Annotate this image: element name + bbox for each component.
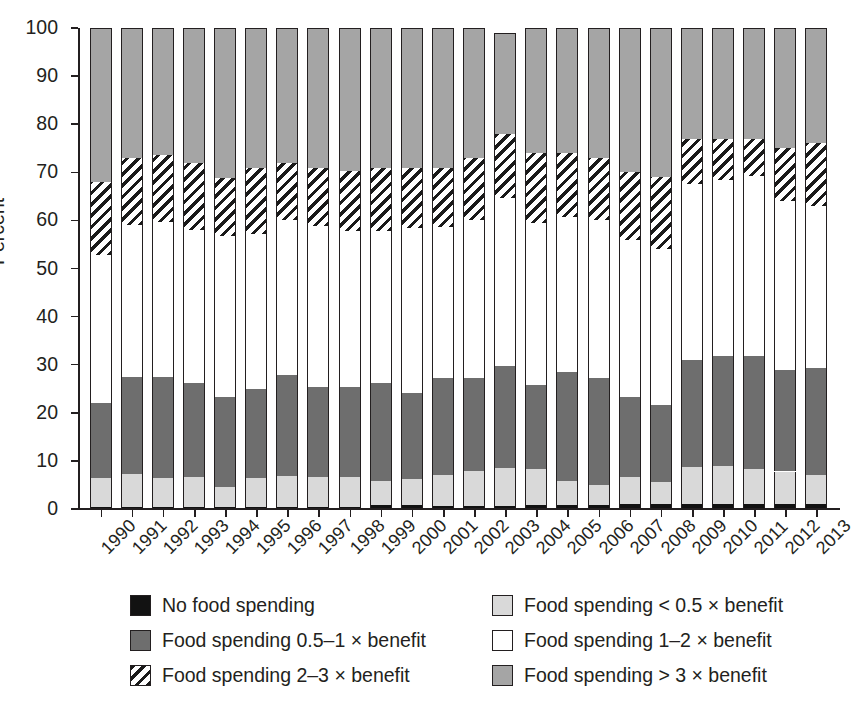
bar-segment-2_to_3[interactable]	[712, 139, 734, 181]
bar-segment-half_to_1[interactable]	[432, 378, 454, 475]
legend-item-right-2[interactable]: Food spending > 3 × benefit	[492, 658, 783, 693]
bar-segment-1_to_2[interactable]	[214, 236, 236, 397]
bar-segment-gt_3[interactable]	[494, 33, 516, 134]
bar-segment-1_to_2[interactable]	[556, 217, 578, 373]
bar-segment-half_to_1[interactable]	[370, 383, 392, 481]
bar-segment-2_to_3[interactable]	[494, 134, 516, 198]
bar-segment-half_to_1[interactable]	[245, 389, 267, 478]
bar-segment-1_to_2[interactable]	[805, 206, 827, 367]
legend-item-left-2[interactable]: Food spending 2–3 × benefit	[130, 658, 426, 693]
bar-segment-lt_half[interactable]	[681, 467, 703, 504]
bar-segment-gt_3[interactable]	[183, 28, 205, 163]
bar-segment-lt_half[interactable]	[743, 469, 765, 504]
bar-segment-1_to_2[interactable]	[681, 184, 703, 360]
bar-segment-half_to_1[interactable]	[339, 387, 361, 477]
bar-segment-half_to_1[interactable]	[805, 368, 827, 476]
bar-segment-1_to_2[interactable]	[307, 226, 329, 387]
bar-segment-gt_3[interactable]	[619, 28, 641, 172]
bar-segment-gt_3[interactable]	[370, 28, 392, 167]
bar-segment-2_to_3[interactable]	[183, 163, 205, 230]
bar-segment-2_to_3[interactable]	[307, 168, 329, 226]
bar-segment-lt_half[interactable]	[276, 476, 298, 507]
bar-segment-2_to_3[interactable]	[401, 168, 423, 229]
bar-segment-half_to_1[interactable]	[214, 397, 236, 487]
bar-segment-gt_3[interactable]	[432, 28, 454, 167]
bar-segment-half_to_1[interactable]	[588, 378, 610, 486]
bar-segment-1_to_2[interactable]	[121, 225, 143, 377]
bar-segment-gt_3[interactable]	[339, 28, 361, 171]
bar-segment-half_to_1[interactable]	[183, 383, 205, 477]
bar-segment-1_to_2[interactable]	[276, 220, 298, 375]
bar-segment-lt_half[interactable]	[121, 474, 143, 507]
bar-segment-1_to_2[interactable]	[152, 222, 174, 377]
bar-segment-half_to_1[interactable]	[774, 370, 796, 471]
bar-segment-gt_3[interactable]	[588, 28, 610, 158]
bar-segment-gt_3[interactable]	[401, 28, 423, 167]
bar-segment-1_to_2[interactable]	[525, 223, 547, 385]
bar-segment-gt_3[interactable]	[556, 28, 578, 153]
bar-segment-1_to_2[interactable]	[463, 220, 485, 378]
bar-segment-half_to_1[interactable]	[90, 403, 112, 478]
legend-item-right-0[interactable]: Food spending < 0.5 × benefit	[492, 588, 783, 623]
bar-segment-2_to_3[interactable]	[556, 153, 578, 216]
legend-item-right-1[interactable]: Food spending 1–2 × benefit	[492, 623, 783, 658]
bar-segment-lt_half[interactable]	[339, 477, 361, 507]
bar-segment-2_to_3[interactable]	[525, 153, 547, 223]
bar-segment-half_to_1[interactable]	[743, 356, 765, 469]
legend-item-left-0[interactable]: No food spending	[130, 588, 426, 623]
bar-segment-lt_half[interactable]	[370, 481, 392, 505]
bar-segment-lt_half[interactable]	[245, 478, 267, 507]
bar-segment-lt_half[interactable]	[307, 477, 329, 507]
bar-segment-lt_half[interactable]	[183, 477, 205, 507]
bar-segment-half_to_1[interactable]	[401, 393, 423, 479]
bar-segment-1_to_2[interactable]	[90, 255, 112, 403]
bar-segment-2_to_3[interactable]	[619, 172, 641, 239]
bar-segment-lt_half[interactable]	[525, 469, 547, 505]
bar-segment-2_to_3[interactable]	[370, 168, 392, 231]
bar-segment-2_to_3[interactable]	[276, 163, 298, 221]
bar-segment-gt_3[interactable]	[743, 28, 765, 139]
bar-segment-gt_3[interactable]	[245, 28, 267, 167]
bar-segment-half_to_1[interactable]	[619, 397, 641, 477]
bar-segment-lt_half[interactable]	[774, 472, 796, 505]
bar-segment-1_to_2[interactable]	[432, 227, 454, 378]
bar-segment-1_to_2[interactable]	[774, 201, 796, 371]
bar-segment-1_to_2[interactable]	[650, 249, 672, 405]
bar-segment-gt_3[interactable]	[774, 28, 796, 148]
bar-segment-1_to_2[interactable]	[588, 220, 610, 378]
bar-segment-lt_half[interactable]	[805, 475, 827, 504]
bar-segment-1_to_2[interactable]	[183, 230, 205, 383]
bar-segment-gt_3[interactable]	[307, 28, 329, 167]
bar-segment-1_to_2[interactable]	[339, 231, 361, 387]
bar-segment-half_to_1[interactable]	[494, 366, 516, 468]
bar-segment-2_to_3[interactable]	[152, 155, 174, 222]
bar-segment-2_to_3[interactable]	[743, 139, 765, 176]
legend-item-left-1[interactable]: Food spending 0.5–1 × benefit	[130, 623, 426, 658]
bar-segment-gt_3[interactable]	[525, 28, 547, 153]
bar-segment-1_to_2[interactable]	[245, 234, 267, 389]
bar-segment-lt_half[interactable]	[90, 478, 112, 507]
bar-segment-lt_half[interactable]	[712, 466, 734, 504]
bar-segment-1_to_2[interactable]	[370, 231, 392, 383]
bar-segment-lt_half[interactable]	[432, 475, 454, 506]
bar-segment-2_to_3[interactable]	[681, 139, 703, 185]
bar-segment-2_to_3[interactable]	[588, 158, 610, 220]
bar-segment-half_to_1[interactable]	[307, 387, 329, 477]
bar-segment-gt_3[interactable]	[805, 28, 827, 143]
bar-segment-gt_3[interactable]	[681, 28, 703, 139]
bar-segment-2_to_3[interactable]	[432, 168, 454, 227]
bar-segment-2_to_3[interactable]	[339, 171, 361, 231]
bar-segment-2_to_3[interactable]	[650, 177, 672, 249]
bar-segment-gt_3[interactable]	[712, 28, 734, 139]
bar-segment-half_to_1[interactable]	[712, 356, 734, 467]
bar-segment-half_to_1[interactable]	[681, 360, 703, 467]
bar-segment-2_to_3[interactable]	[90, 182, 112, 255]
bar-segment-1_to_2[interactable]	[619, 240, 641, 397]
bar-segment-1_to_2[interactable]	[712, 180, 734, 355]
bar-segment-lt_half[interactable]	[401, 479, 423, 505]
bar-segment-2_to_3[interactable]	[463, 158, 485, 221]
bar-segment-half_to_1[interactable]	[650, 405, 672, 481]
bar-segment-half_to_1[interactable]	[276, 375, 298, 476]
bar-segment-half_to_1[interactable]	[463, 378, 485, 470]
bar-segment-half_to_1[interactable]	[525, 385, 547, 469]
